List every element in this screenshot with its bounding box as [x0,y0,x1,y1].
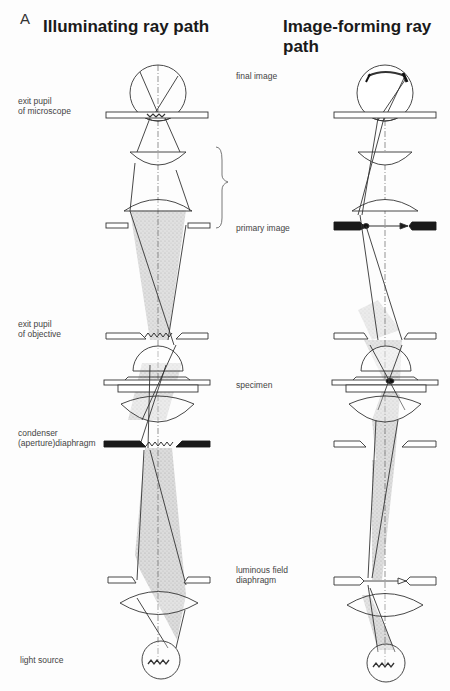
image-forming-ray-path [332,65,438,682]
collector-lens [120,592,198,615]
objective-lens [133,346,183,371]
eye-lens [130,152,186,165]
field-lens [124,200,192,212]
stage [104,380,210,385]
illuminating-ray-path [104,65,210,679]
figure: A Illuminating ray path Image-forming ra… [0,0,450,691]
optics-diagram [0,0,450,691]
eyepiece-brace [216,147,228,228]
lamp-circle [142,641,180,679]
